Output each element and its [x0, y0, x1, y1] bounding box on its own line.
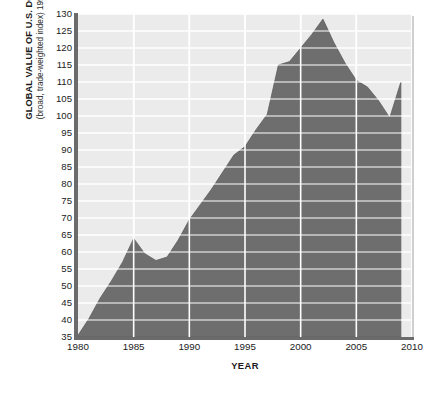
y-tick-label: 90: [44, 144, 72, 155]
y-tick-label: 50: [44, 280, 72, 291]
x-axis-label: YEAR: [78, 360, 412, 371]
y-tick-label: 45: [44, 297, 72, 308]
y-tick-label: 120: [44, 42, 72, 53]
y-tick-label: 115: [44, 59, 72, 70]
area-path: [78, 19, 401, 337]
x-tick-label: 1995: [223, 341, 267, 352]
y-tick-label: 70: [44, 212, 72, 223]
y-axis-ticks: 1301251201151101051009590858075706560555…: [40, 14, 72, 337]
x-tick-label: 2000: [279, 341, 323, 352]
y-tick-label: 130: [44, 8, 72, 19]
x-tick-label: 2010: [390, 341, 434, 352]
y-tick-label: 95: [44, 127, 72, 138]
y-axis-label: GLOBAL VALUE OF U.S. DOLLAR: [24, 0, 36, 119]
x-axis-ticks: 1980198519901995200020052010: [78, 341, 412, 357]
x-tick-label: 2005: [334, 341, 378, 352]
y-tick-label: 60: [44, 246, 72, 257]
y-tick-label: 85: [44, 161, 72, 172]
y-tick-label: 100: [44, 110, 72, 121]
y-tick-label: 75: [44, 195, 72, 206]
x-tick-label: 1985: [112, 341, 156, 352]
plot-area: [78, 14, 412, 337]
x-axis-line: [74, 337, 414, 340]
x-tick-label: 1980: [56, 341, 100, 352]
chart-canvas: [78, 14, 412, 337]
y-tick-label: 80: [44, 178, 72, 189]
y-tick-label: 105: [44, 93, 72, 104]
y-tick-label: 110: [44, 76, 72, 87]
y-tick-label: 65: [44, 229, 72, 240]
chart-figure: (broad, trade-weighted index) 1997 = 100…: [0, 0, 434, 394]
y-tick-label: 125: [44, 25, 72, 36]
y-tick-label: 40: [44, 314, 72, 325]
y-axis-line: [74, 13, 78, 339]
y-tick-label: 35: [44, 331, 72, 342]
x-tick-label: 1990: [167, 341, 211, 352]
area-series: [78, 19, 401, 337]
y-tick-label: 55: [44, 263, 72, 274]
